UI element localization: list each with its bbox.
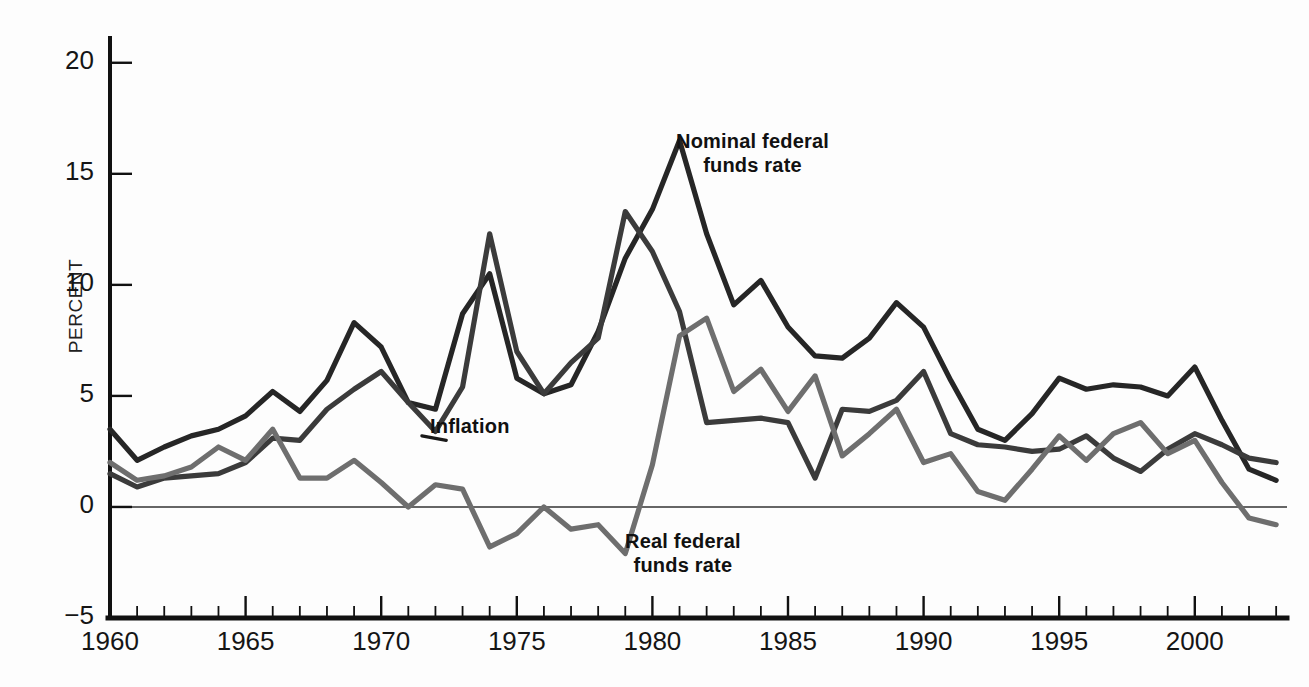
y-axis-title: PERCENT bbox=[65, 226, 87, 386]
chart-canvas bbox=[0, 0, 1309, 687]
y-tick-label: 20 bbox=[24, 45, 94, 76]
y-tick-label: 0 bbox=[24, 489, 94, 520]
data-series bbox=[110, 141, 1276, 554]
series-label-nominal: Nominal federal funds rate bbox=[676, 130, 829, 177]
series-label-real: Real federal funds rate bbox=[625, 530, 741, 577]
x-tick-label: 1980 bbox=[592, 626, 712, 657]
series-label-real-line1: Real federal bbox=[625, 530, 741, 554]
series-label-nominal-line2: funds rate bbox=[676, 154, 829, 178]
x-tick-label: 1985 bbox=[728, 626, 848, 657]
x-tick-label: 1975 bbox=[457, 626, 577, 657]
y-tick-label: 10 bbox=[24, 267, 94, 298]
chart-figure: PERCENT 20151050−5 196019651970197519801… bbox=[0, 0, 1309, 687]
x-tick-label: 1960 bbox=[50, 626, 170, 657]
x-tick-label: 1990 bbox=[864, 626, 984, 657]
x-tick-label: 2000 bbox=[1135, 626, 1255, 657]
series-label-inflation: Inflation bbox=[430, 415, 510, 439]
series-line bbox=[110, 141, 1276, 481]
x-tick-label: 1970 bbox=[321, 626, 441, 657]
y-tick-label: 15 bbox=[24, 156, 94, 187]
series-label-nominal-line1: Nominal federal bbox=[676, 130, 829, 154]
x-tick-label: 1995 bbox=[999, 626, 1119, 657]
y-tick-label: 5 bbox=[24, 378, 94, 409]
x-tick-label: 1965 bbox=[186, 626, 306, 657]
series-line bbox=[110, 318, 1276, 553]
series-label-real-line2: funds rate bbox=[625, 554, 741, 578]
